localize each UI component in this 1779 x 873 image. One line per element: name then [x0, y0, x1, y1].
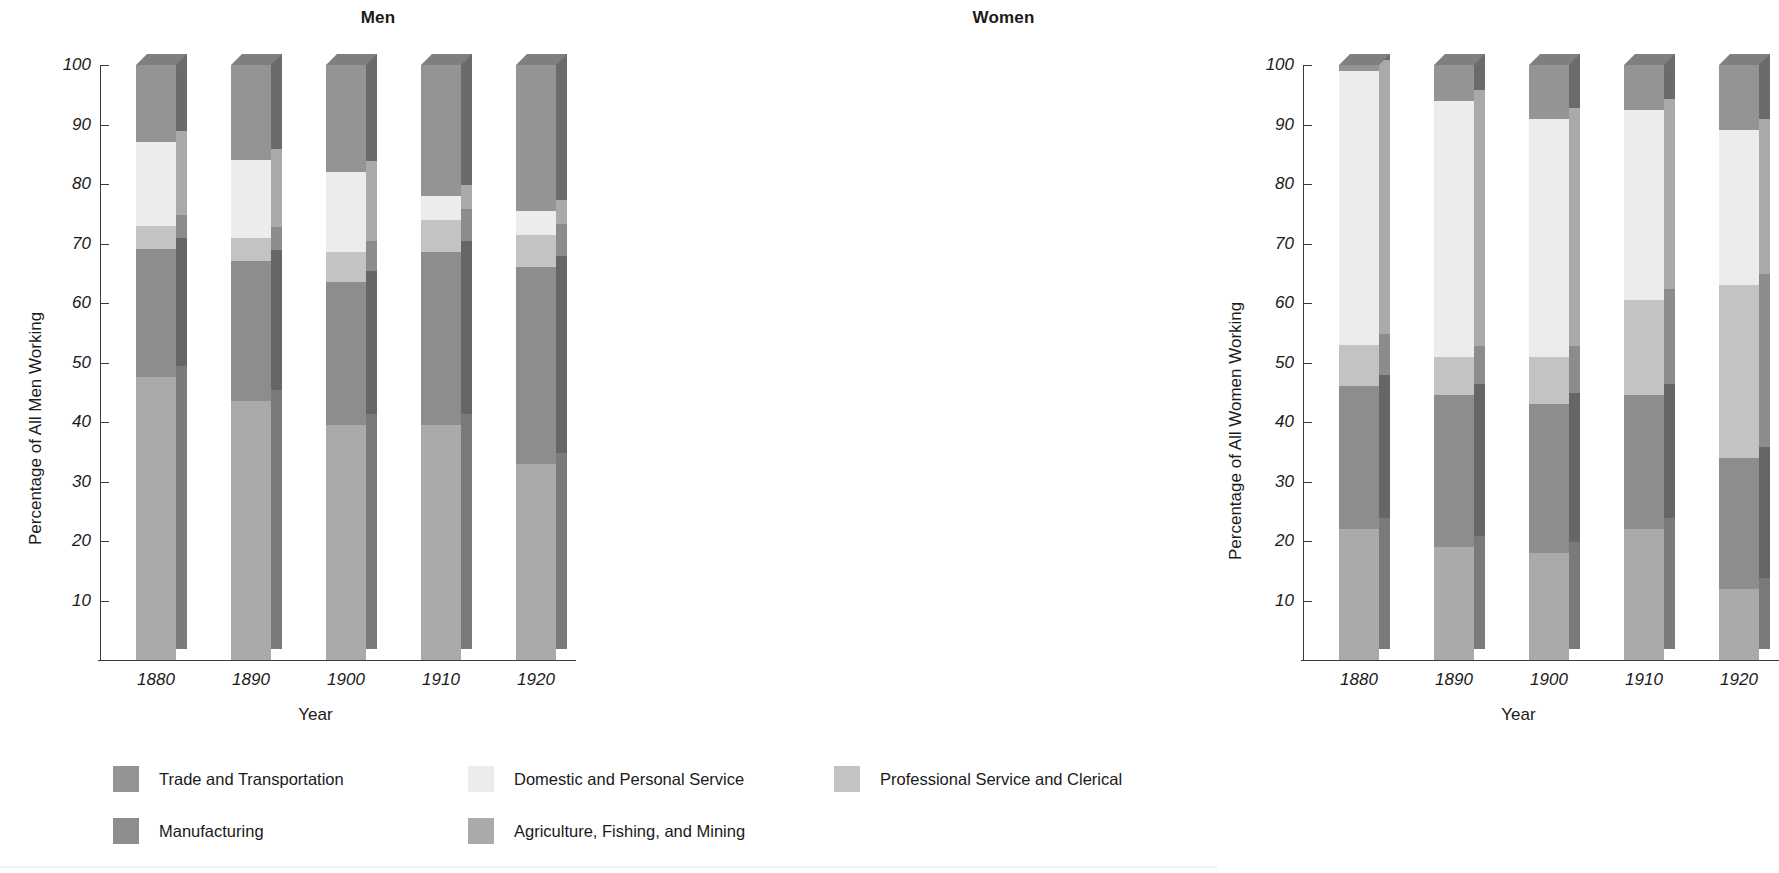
bar-segment-men-1900-3[interactable]: [326, 172, 366, 252]
y-tick-label-women-80: 80: [1275, 174, 1294, 194]
bar-segment-women-1890-4[interactable]: [1434, 65, 1474, 101]
bar-segment-men-1910-3[interactable]: [421, 196, 461, 220]
bar-segment-women-1920-2[interactable]: [1719, 285, 1759, 458]
bar-segment-women-1900-1[interactable]: [1529, 404, 1569, 553]
legend-item-0[interactable]: Trade and Transportation: [113, 766, 344, 792]
bar-segment-side-women-1900-1: [1569, 393, 1580, 542]
bar-segment-men-1920-1[interactable]: [516, 267, 556, 463]
legend-item-1[interactable]: Domestic and Personal Service: [468, 766, 744, 792]
bar-segment-side-men-1910-0: [461, 414, 472, 649]
bar-men-1890[interactable]: [231, 65, 271, 660]
bar-segment-men-1890-3[interactable]: [231, 160, 271, 237]
bar-segment-women-1920-4[interactable]: [1719, 65, 1759, 130]
bar-segment-side-women-1920-1: [1759, 447, 1770, 578]
y-tick-label-men-20: 20: [72, 531, 91, 551]
y-axis-label-men: Percentage of All Men Working: [26, 312, 46, 545]
legend-swatch-icon-0: [113, 766, 139, 792]
y-tick-label-men-80: 80: [72, 174, 91, 194]
bar-segment-women-1910-2[interactable]: [1624, 300, 1664, 395]
bar-segment-side-women-1920-3: [1759, 119, 1770, 274]
bar-women-1910[interactable]: [1624, 65, 1664, 660]
bar-segment-women-1880-0[interactable]: [1339, 529, 1379, 660]
x-axis-label-men: Year: [78, 705, 553, 725]
bar-segment-men-1900-4[interactable]: [326, 65, 366, 172]
bar-segment-women-1890-0[interactable]: [1434, 547, 1474, 660]
bar-segment-women-1920-3[interactable]: [1719, 130, 1759, 285]
bar-segment-women-1910-1[interactable]: [1624, 395, 1664, 529]
legend-label-2: Professional Service and Clerical: [880, 770, 1122, 789]
bar-segment-women-1910-0[interactable]: [1624, 529, 1664, 660]
x-tick-label-women-1880: 1880: [1319, 670, 1399, 690]
y-tick-label-women-10: 10: [1275, 591, 1294, 611]
bar-segment-men-1880-2[interactable]: [136, 226, 176, 250]
bar-segment-men-1900-2[interactable]: [326, 252, 366, 282]
bar-segment-men-1910-1[interactable]: [421, 252, 461, 425]
bar-segment-men-1890-0[interactable]: [231, 401, 271, 660]
bar-segment-side-men-1890-2: [271, 227, 282, 251]
bar-segment-women-1910-3[interactable]: [1624, 110, 1664, 300]
bar-segment-side-women-1890-1: [1474, 384, 1485, 536]
bar-segment-women-1890-1[interactable]: [1434, 395, 1474, 547]
bar-segment-women-1890-2[interactable]: [1434, 357, 1474, 396]
bar-segment-women-1920-1[interactable]: [1719, 458, 1759, 589]
bar-men-1910[interactable]: [421, 65, 461, 660]
bar-segment-women-1880-3[interactable]: [1339, 71, 1379, 345]
bar-segment-men-1920-2[interactable]: [516, 235, 556, 268]
bar-segment-men-1920-3[interactable]: [516, 211, 556, 235]
bar-segment-men-1910-0[interactable]: [421, 425, 461, 660]
bar-segment-men-1900-1[interactable]: [326, 282, 366, 425]
bar-men-1920[interactable]: [516, 65, 556, 660]
bar-segment-women-1920-0[interactable]: [1719, 589, 1759, 660]
bar-segment-side-men-1880-1: [176, 238, 187, 366]
bar-women-1880[interactable]: [1339, 65, 1379, 660]
legend-item-4[interactable]: Agriculture, Fishing, and Mining: [468, 818, 745, 844]
y-tick-label-women-30: 30: [1275, 472, 1294, 492]
bar-segment-side-women-1890-0: [1474, 536, 1485, 649]
bar-women-1900[interactable]: [1529, 65, 1569, 660]
bar-segment-men-1910-2[interactable]: [421, 220, 461, 253]
bar-segment-men-1910-4[interactable]: [421, 65, 461, 196]
bar-segment-women-1910-4[interactable]: [1624, 65, 1664, 110]
legend-item-2[interactable]: Professional Service and Clerical: [834, 766, 1122, 792]
bar-segment-women-1890-3[interactable]: [1434, 101, 1474, 357]
bar-segment-women-1880-2[interactable]: [1339, 345, 1379, 387]
y-tick-label-women-100: 100: [1266, 55, 1294, 75]
x-tick-label-men-1890: 1890: [211, 670, 291, 690]
bar-segment-side-women-1890-2: [1474, 346, 1485, 385]
bar-segment-men-1890-2[interactable]: [231, 238, 271, 262]
plot-area-women: 102030405060708090100 188018901900191019…: [1303, 65, 1778, 660]
legend-swatch-icon-3: [113, 818, 139, 844]
bar-segment-men-1880-3[interactable]: [136, 142, 176, 225]
bar-segment-women-1880-4[interactable]: [1339, 65, 1379, 71]
bar-segment-side-women-1890-3: [1474, 90, 1485, 346]
chart-panel-women: Women Percentage of All Women Working 10…: [600, 0, 1217, 740]
bar-segment-men-1890-1[interactable]: [231, 261, 271, 401]
bar-segment-women-1880-1[interactable]: [1339, 386, 1379, 529]
bar-segment-side-women-1920-2: [1759, 274, 1770, 447]
bar-segment-women-1900-4[interactable]: [1529, 65, 1569, 119]
bar-men-1880[interactable]: [136, 65, 176, 660]
bar-segment-men-1880-1[interactable]: [136, 249, 176, 377]
bar-segment-women-1900-3[interactable]: [1529, 119, 1569, 357]
y-tick-label-men-90: 90: [72, 115, 91, 135]
legend-swatch-icon-1: [468, 766, 494, 792]
bar-segment-side-men-1900-3: [366, 161, 377, 241]
bar-women-1920[interactable]: [1719, 65, 1759, 660]
bar-segment-women-1900-0[interactable]: [1529, 553, 1569, 660]
legend-item-3[interactable]: Manufacturing: [113, 818, 264, 844]
bar-segment-side-women-1910-0: [1664, 518, 1675, 649]
bar-segment-side-men-1900-2: [366, 241, 377, 271]
bar-segment-men-1890-4[interactable]: [231, 65, 271, 160]
bar-segment-men-1880-4[interactable]: [136, 65, 176, 142]
bar-segment-women-1900-2[interactable]: [1529, 357, 1569, 405]
plot-area-men: 102030405060708090100 188018901900191019…: [100, 65, 575, 660]
bar-segment-side-men-1920-1: [556, 256, 567, 452]
bar-segment-men-1920-0[interactable]: [516, 464, 556, 660]
bar-segment-men-1880-0[interactable]: [136, 377, 176, 660]
bar-women-1890[interactable]: [1434, 65, 1474, 660]
bar-segment-men-1900-0[interactable]: [326, 425, 366, 660]
bar-segment-side-men-1880-4: [176, 54, 187, 131]
bar-segment-men-1920-4[interactable]: [516, 65, 556, 211]
bar-segment-side-women-1920-4: [1759, 54, 1770, 119]
bar-men-1900[interactable]: [326, 65, 366, 660]
